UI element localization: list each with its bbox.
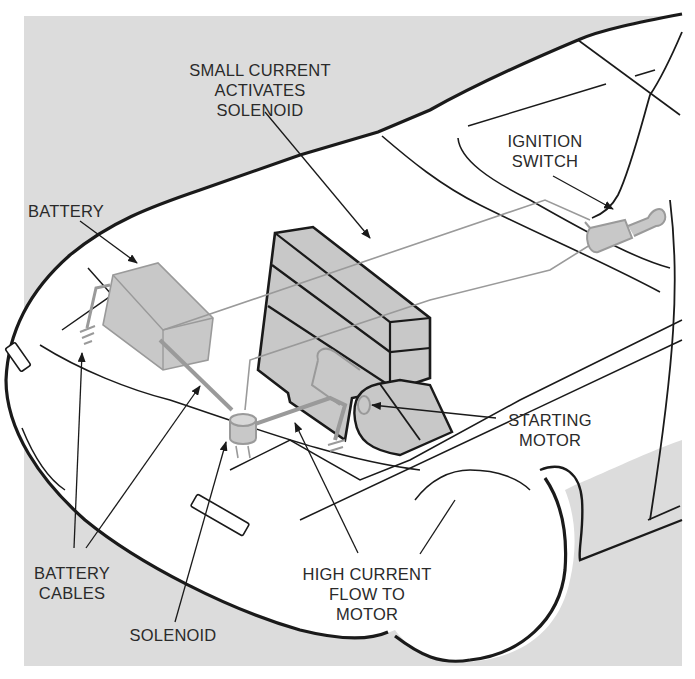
label-solenoid: SOLENOID bbox=[123, 625, 223, 645]
label-ignition-switch: IGNITION SWITCH bbox=[495, 131, 595, 171]
label-battery: BATTERY bbox=[28, 201, 128, 221]
label-starting-motor: STARTING MOTOR bbox=[500, 410, 600, 450]
label-small-current: SMALL CURRENT ACTIVATES SOLENOID bbox=[170, 60, 350, 120]
label-battery-cables: BATTERY CABLES bbox=[22, 563, 122, 603]
label-high-current: HIGH CURRENT FLOW TO MOTOR bbox=[292, 564, 442, 624]
starting-system-diagram: SMALL CURRENT ACTIVATES SOLENOID IGNITIO… bbox=[0, 0, 695, 679]
